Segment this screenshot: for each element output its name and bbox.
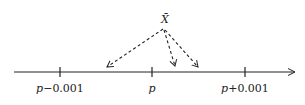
tick-label-p-plus: p+0.001 — [221, 82, 269, 95]
tick-label-p-minus: p−0.001 — [36, 82, 84, 95]
sample-mean-label: X̄ — [160, 13, 170, 26]
tick-label-p: p — [148, 82, 155, 95]
dashed-arrow-left — [107, 29, 163, 67]
number-line-diagram: p−0.001 p p+0.001 X̄ — [0, 0, 305, 105]
